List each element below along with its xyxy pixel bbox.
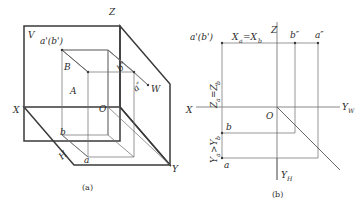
point-marker-b-top-a	[221, 157, 223, 159]
label-b-axis-yw: Y W	[342, 102, 355, 114]
figure-container: Z V X Y W H a'(b') B A O b″ a″ b a (a)	[0, 0, 362, 204]
label-b-dim-y-sub2: b	[214, 136, 221, 140]
label-b-dim-x-main: X	[231, 32, 239, 42]
label-b-dim-z-sub2: b	[214, 81, 221, 85]
point-marker-b-top-b	[221, 132, 223, 134]
point-marker-b-side-b	[294, 42, 296, 44]
label-b-dim-x-sub2: b	[258, 37, 262, 44]
label-b-axis-z: Z	[270, 25, 278, 35]
label-b-side-view-a: a″	[315, 30, 324, 40]
label-b-axis-yh-sub: H	[286, 175, 293, 182]
label-b-dim-x-mid: =X	[243, 32, 258, 42]
miter-line-45deg	[277, 107, 340, 170]
label-b-top-view-a: a	[224, 160, 229, 170]
label-b-dim-x-equal: X a =X b	[231, 32, 262, 44]
label-b-axis-yh: Y H	[281, 170, 293, 182]
label-b-dim-z-equal: Z a =Z b	[209, 81, 221, 109]
diagram-b-svg: Z X Y W Y H a'(b') b″ a″ O b a X a =X b …	[0, 0, 362, 204]
caption-b: (b)	[272, 190, 283, 199]
point-marker-b-side-a	[317, 42, 319, 44]
point-marker-b-front-ab	[221, 42, 223, 44]
label-b-top-view-b: b	[226, 122, 232, 132]
label-b-origin: O	[266, 111, 274, 121]
label-b-axis-yw-sub: W	[348, 107, 355, 114]
label-b-axis-x: X	[185, 105, 193, 115]
label-b-dim-y-compare: Y a >Y b	[209, 136, 221, 163]
label-b-front-view-ab: a'(b')	[190, 32, 214, 42]
label-b-side-view-b: b″	[290, 30, 300, 40]
